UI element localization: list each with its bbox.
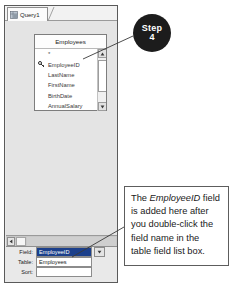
field-name: AnnualSalary [48,103,82,109]
qbe-table-cell[interactable]: Employees [36,257,92,267]
field-name: LastName [48,72,74,78]
design-grid-splitter[interactable] [6,236,117,247]
qbe-design-grid[interactable]: Field: EmployeeID Table: Employees Sort: [6,247,117,282]
splitter-handle[interactable] [16,237,26,246]
qbe-row-table: Table: Employees [6,257,117,267]
field-list-item[interactable]: LastName [35,70,106,80]
query-design-window: Query1 Employees * [4,5,118,283]
qbe-row-label: Field: [6,247,36,257]
annotation-line-1a: The [131,193,150,203]
step-badge-number: 4 [149,33,154,42]
primary-key-icon [38,61,48,68]
annotation-line-5: table field list box. [131,245,223,258]
query-grid-icon [10,11,18,19]
step-badge-callout: Step 4 [133,14,171,52]
annotation-line-1b: field [200,193,220,203]
field-list-scrollbar[interactable] [97,49,106,111]
field-list-item[interactable]: AnnualSalary [35,101,106,111]
tab-query1[interactable]: Query1 [7,7,48,21]
annotation-line-2: is added here after [131,205,223,218]
field-list-item[interactable]: * [35,49,106,59]
annotation-line-1: The EmployeeID field [131,192,223,205]
scroll-left-arrow-icon[interactable] [7,237,15,246]
field-list-item[interactable]: FirstName [35,80,106,90]
tab-slant-edge [48,7,55,21]
annotation-line-3: you double-click the [131,218,223,231]
scroll-up-arrow-icon[interactable] [98,49,106,58]
annotation-callout-box: The EmployeeID field is added here after… [124,186,229,266]
qbe-row-label: Table: [6,257,36,267]
annotation-field-name: EmployeeID [150,193,201,203]
chevron-down-icon[interactable] [94,247,105,257]
splitter-track[interactable] [27,237,116,246]
qbe-row-field: Field: EmployeeID [6,247,117,257]
qbe-field-cell[interactable]: EmployeeID [36,247,92,257]
field-name: FirstName [48,82,75,88]
field-list-title: Employees [35,35,106,49]
qbe-row-label: Sort: [6,267,36,277]
field-list-item[interactable]: BirthDate [35,91,106,101]
annotation-text: The EmployeeID field is added here after… [131,192,223,258]
scroll-down-arrow-icon[interactable] [98,102,106,111]
field-list-body[interactable]: * EmployeeID LastName [35,49,106,111]
qbe-row-sort: Sort: [6,267,117,277]
scrollbar-thumb[interactable] [98,60,106,92]
annotation-line-4: field name in the [131,232,223,245]
field-name: BirthDate [48,93,72,99]
field-name: * [48,51,50,57]
qbe-sort-cell[interactable] [36,267,92,277]
query-design-surface[interactable]: Employees * EmployeeID [6,21,117,236]
document-tab-strip: Query1 [5,6,117,21]
tab-label: Query1 [20,12,40,18]
table-field-list-box[interactable]: Employees * EmployeeID [34,34,107,111]
field-list-item[interactable]: EmployeeID [35,59,106,69]
field-name: EmployeeID [48,62,80,68]
